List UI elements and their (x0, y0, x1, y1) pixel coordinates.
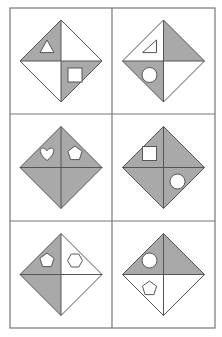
cell-r1-c0 (20, 127, 102, 209)
circle-icon (142, 68, 157, 83)
circle-icon (142, 253, 157, 268)
hexagon-icon (68, 254, 83, 267)
square-icon (68, 68, 82, 82)
cell-r0-c1 (123, 20, 205, 102)
cell-r1-c1 (123, 127, 205, 209)
cell-r2-c0 (20, 234, 102, 316)
square-icon (143, 147, 157, 161)
cell-r0-c0 (20, 20, 102, 102)
puzzle-figure (0, 0, 222, 337)
circle-icon (170, 174, 185, 189)
cell-r2-c1 (123, 234, 205, 316)
